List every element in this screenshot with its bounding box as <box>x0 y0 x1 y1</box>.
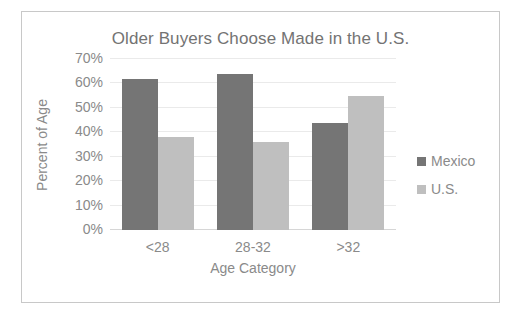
legend-item-mexico[interactable]: Mexico <box>417 153 497 169</box>
chart-legend: MexicoU.S. <box>417 153 497 209</box>
x-axis-title: Age Category <box>110 260 396 276</box>
legend-label: U.S. <box>431 181 458 197</box>
x-axis-tick-label: <28 <box>110 239 205 255</box>
bars-layer: <2828-32>32 <box>110 59 396 230</box>
legend-label: Mexico <box>431 153 475 169</box>
legend-item-u-s[interactable]: U.S. <box>417 181 497 197</box>
y-axis-tick-label: 10% <box>47 197 103 213</box>
bar-u-s-28[interactable] <box>158 137 194 230</box>
bar-group: >32 <box>301 59 396 230</box>
y-axis-tick-label: 50% <box>47 99 103 115</box>
bar-u-s-2832[interactable] <box>253 142 289 230</box>
y-axis-tick-label: 0% <box>47 221 103 237</box>
y-axis-tick-label: 30% <box>47 148 103 164</box>
y-axis-tick-label: 70% <box>47 50 103 66</box>
bar-mexico-32[interactable] <box>312 123 348 230</box>
x-axis-tick-label: >32 <box>301 239 396 255</box>
bar-group: <28 <box>110 59 205 230</box>
chart-frame: Older Buyers Choose Made in the U.S. Per… <box>21 11 500 303</box>
plot-area: 0%10%20%30%40%50%60%70% <2828-32>32 <box>110 59 396 230</box>
y-axis-tick-label: 60% <box>47 74 103 90</box>
x-axis-tick-label: 28-32 <box>205 239 300 255</box>
chart-title: Older Buyers Choose Made in the U.S. <box>22 29 499 49</box>
y-axis-tick-label: 40% <box>47 123 103 139</box>
bar-u-s-32[interactable] <box>348 96 384 230</box>
legend-swatch-icon <box>417 157 426 166</box>
bar-mexico-28[interactable] <box>122 79 158 230</box>
bar-mexico-2832[interactable] <box>217 74 253 230</box>
y-axis-tick-label: 20% <box>47 172 103 188</box>
bar-group: 28-32 <box>205 59 300 230</box>
legend-swatch-icon <box>417 185 426 194</box>
